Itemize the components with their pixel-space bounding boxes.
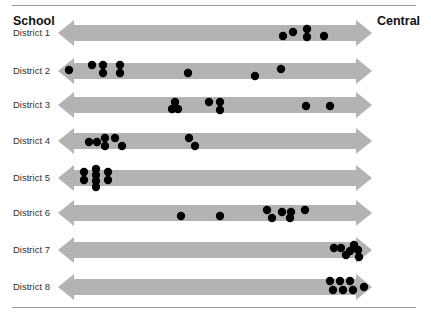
data-point	[99, 61, 107, 69]
data-point	[174, 105, 182, 113]
data-point	[101, 134, 109, 142]
data-point	[301, 206, 309, 214]
data-point	[80, 176, 88, 184]
data-point	[355, 253, 363, 261]
data-point	[320, 32, 328, 40]
data-point	[93, 138, 101, 146]
data-point	[184, 69, 192, 77]
double-arrow-band	[58, 92, 372, 118]
data-point	[360, 283, 368, 291]
data-point	[349, 286, 357, 294]
data-point	[116, 69, 124, 77]
double-arrow-band	[58, 237, 372, 263]
data-point	[101, 142, 109, 150]
data-point	[216, 106, 224, 114]
data-point	[329, 286, 337, 294]
data-point	[339, 286, 347, 294]
data-point	[111, 134, 119, 142]
data-point	[80, 168, 88, 176]
data-point	[302, 102, 310, 110]
data-point	[104, 176, 112, 184]
data-point	[85, 138, 93, 146]
data-point	[116, 61, 124, 69]
data-point	[205, 98, 213, 106]
data-point	[337, 244, 345, 252]
data-point	[216, 212, 224, 220]
data-point	[287, 208, 295, 216]
data-point	[65, 66, 73, 74]
data-point	[251, 72, 259, 80]
double-arrow-band	[58, 200, 372, 226]
data-point	[191, 142, 199, 150]
double-arrow-band	[58, 274, 372, 300]
data-point	[216, 98, 224, 106]
plot-area	[0, 0, 431, 319]
data-point	[326, 277, 334, 285]
data-point	[99, 69, 107, 77]
data-point	[326, 102, 334, 110]
data-point	[118, 142, 126, 150]
data-point	[263, 206, 271, 214]
data-point	[279, 32, 287, 40]
data-point	[92, 183, 100, 191]
data-point	[303, 33, 311, 41]
data-point	[336, 277, 344, 285]
data-point	[289, 28, 297, 36]
data-point	[88, 61, 96, 69]
data-point	[185, 134, 193, 142]
data-point	[104, 168, 112, 176]
data-point	[277, 65, 285, 73]
data-point	[177, 212, 185, 220]
data-point	[303, 25, 311, 33]
data-point	[268, 214, 276, 222]
data-point	[346, 277, 354, 285]
data-point	[278, 208, 286, 216]
